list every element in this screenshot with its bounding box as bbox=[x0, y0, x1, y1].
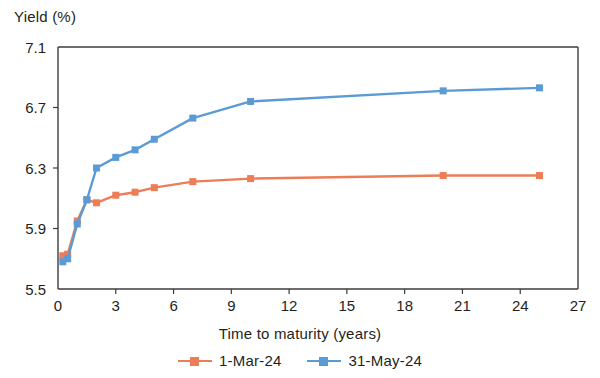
series-1-mar-24 bbox=[59, 172, 543, 259]
data-point-marker bbox=[536, 84, 543, 91]
y-tick-label-group: 5.55.96.36.77.1 bbox=[25, 39, 46, 298]
data-point-marker bbox=[93, 199, 100, 206]
legend-marker bbox=[190, 357, 199, 366]
series-layer bbox=[59, 84, 543, 265]
legend-label: 31-May-24 bbox=[348, 352, 422, 369]
legend-swatch bbox=[178, 355, 212, 367]
x-tick-label: 15 bbox=[339, 297, 356, 314]
legend-item[interactable]: 31-May-24 bbox=[307, 352, 422, 369]
y-tick-label: 6.7 bbox=[25, 99, 46, 116]
legend-swatch bbox=[307, 355, 341, 367]
chart-legend: 1-Mar-2431-May-24 bbox=[0, 352, 600, 369]
data-point-marker bbox=[112, 192, 119, 199]
x-tick-label: 21 bbox=[454, 297, 471, 314]
data-point-marker bbox=[189, 178, 196, 185]
data-point-marker bbox=[83, 196, 90, 203]
data-point-marker bbox=[536, 172, 543, 179]
axis-lines bbox=[53, 47, 578, 294]
legend-item[interactable]: 1-Mar-24 bbox=[178, 352, 281, 369]
x-tick-label: 6 bbox=[169, 297, 177, 314]
legend-marker bbox=[319, 357, 328, 366]
series-line bbox=[63, 176, 540, 256]
data-point-marker bbox=[151, 136, 158, 143]
data-point-marker bbox=[64, 255, 71, 262]
data-point-marker bbox=[74, 220, 81, 227]
y-tick-label: 5.5 bbox=[25, 281, 46, 298]
x-tick-label: 12 bbox=[281, 297, 298, 314]
x-tick-label: 3 bbox=[112, 297, 120, 314]
data-point-marker bbox=[440, 87, 447, 94]
data-point-marker bbox=[93, 165, 100, 172]
x-tick-label: 18 bbox=[396, 297, 413, 314]
x-tick-label: 0 bbox=[54, 297, 62, 314]
x-tick-label: 24 bbox=[512, 297, 529, 314]
data-point-marker bbox=[132, 189, 139, 196]
x-tick-label: 9 bbox=[227, 297, 235, 314]
data-point-marker bbox=[189, 115, 196, 122]
y-tick-label: 6.3 bbox=[25, 160, 46, 177]
data-point-marker bbox=[112, 154, 119, 161]
data-point-marker bbox=[247, 98, 254, 105]
plot-area: 5.55.96.36.77.1 0369121518212427 bbox=[0, 0, 600, 378]
y-tick-label: 7.1 bbox=[25, 39, 46, 56]
x-tick-label: 27 bbox=[570, 297, 587, 314]
yield-curve-chart: Yield (%) 5.55.96.36.77.1 03691215182124… bbox=[0, 0, 600, 378]
data-point-marker bbox=[151, 184, 158, 191]
data-point-marker bbox=[440, 172, 447, 179]
data-point-marker bbox=[247, 175, 254, 182]
x-axis-title: Time to maturity (years) bbox=[0, 325, 600, 342]
x-tick-label-group: 0369121518212427 bbox=[54, 297, 587, 314]
data-point-marker bbox=[132, 146, 139, 153]
legend-label: 1-Mar-24 bbox=[219, 352, 281, 369]
y-tick-label: 5.9 bbox=[25, 220, 46, 237]
